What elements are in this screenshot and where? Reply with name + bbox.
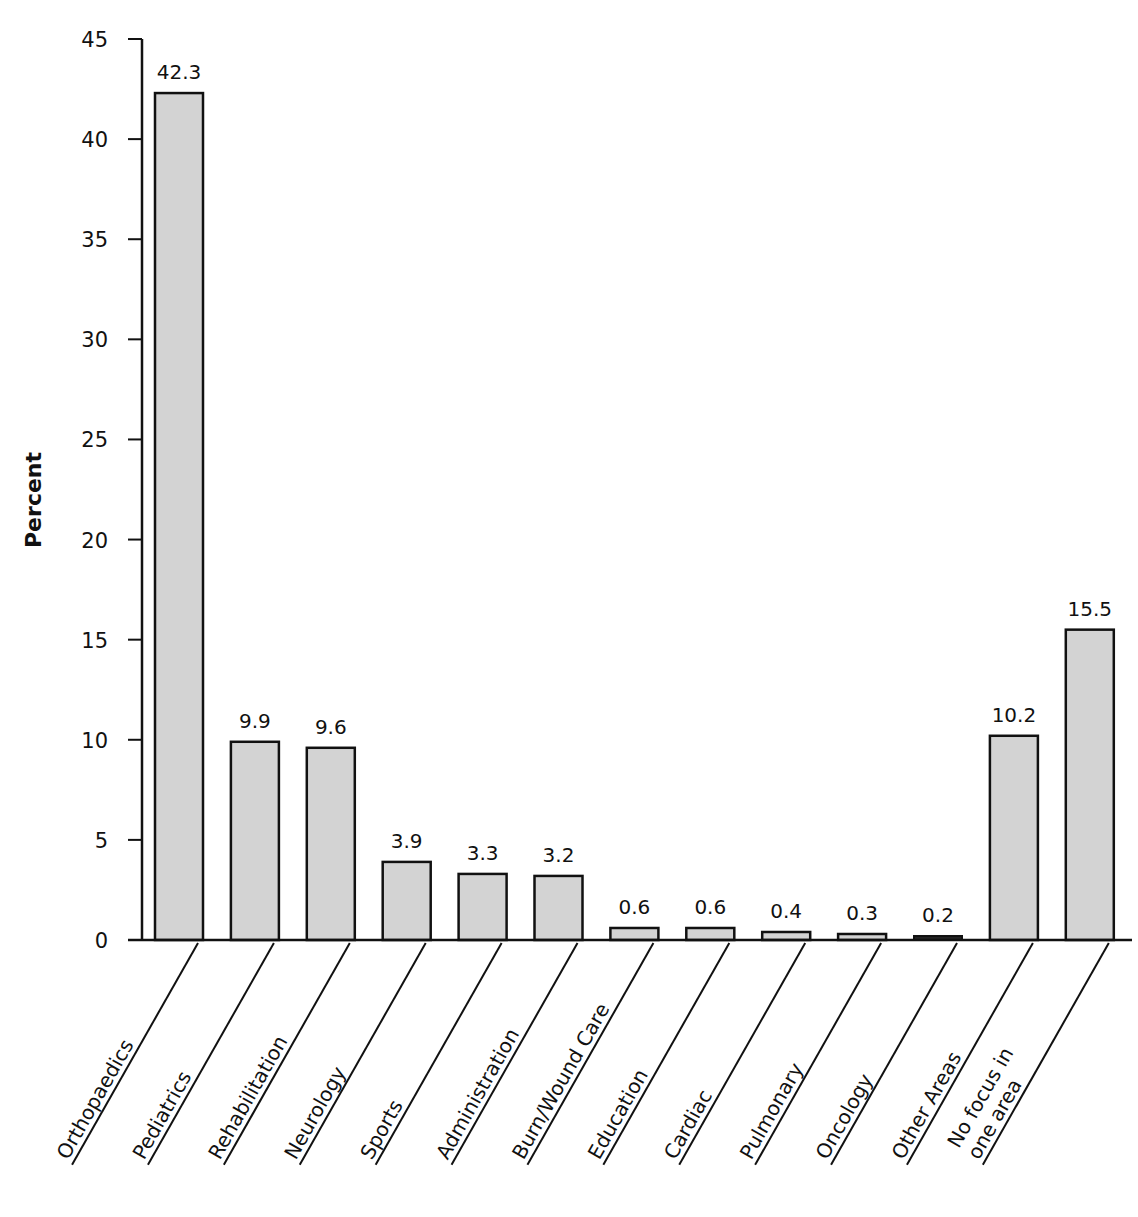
category-label: No focus inone area — [942, 943, 1108, 1165]
category-label-text: Oncology — [811, 1069, 878, 1163]
leader-line — [224, 943, 350, 1165]
leader-line — [831, 943, 957, 1165]
category-labels: OrthopaedicsPediatricsRehabilitationNeur… — [52, 943, 1109, 1165]
value-label: 0.2 — [922, 903, 954, 927]
bars: 42.39.99.63.93.33.20.60.60.40.30.210.215… — [155, 60, 1114, 940]
value-label: 0.6 — [694, 895, 726, 919]
category-label: Burn/Wound Care — [507, 943, 653, 1165]
category-label: Administration — [431, 943, 577, 1165]
bar-no-focus-in-one-area: 15.5 — [1066, 597, 1114, 940]
leader-line — [452, 943, 578, 1165]
category-label: Orthopaedics — [52, 943, 198, 1165]
category-label: Rehabilitation — [203, 943, 349, 1165]
y-tick-label: 15 — [81, 629, 108, 653]
value-label: 42.3 — [157, 60, 202, 84]
y-axis-title: Percent — [21, 452, 46, 549]
y-tick-label: 35 — [81, 228, 108, 252]
bar-orthopaedics: 42.3 — [155, 60, 203, 940]
category-label-text: Administration — [431, 1024, 524, 1163]
leader-line — [300, 943, 426, 1165]
leader-line — [679, 943, 805, 1165]
bar-administration: 3.2 — [535, 843, 583, 940]
category-label: Oncology — [811, 943, 957, 1165]
value-label: 0.6 — [618, 895, 650, 919]
bar-rehabilitation: 9.6 — [307, 715, 355, 940]
leader-line — [527, 943, 653, 1165]
value-label: 15.5 — [1068, 597, 1113, 621]
leader-line — [148, 943, 274, 1165]
bar-burn-wound-care: 0.6 — [610, 895, 658, 940]
bar-pediatrics: 9.9 — [231, 709, 279, 940]
value-label: 9.9 — [239, 709, 271, 733]
category-label: Neurology — [279, 943, 425, 1165]
bar-oncology: 0.2 — [914, 903, 962, 940]
bar-education: 0.6 — [686, 895, 734, 940]
bar-other-areas: 10.2 — [990, 703, 1038, 940]
category-label-text: Neurology — [279, 1062, 350, 1163]
value-label: 9.6 — [315, 715, 347, 739]
category-label-text: Education — [583, 1065, 653, 1163]
y-tick-label: 40 — [81, 128, 108, 152]
leader-line — [755, 943, 881, 1165]
y-tick-label: 45 — [81, 28, 108, 52]
value-label: 3.2 — [543, 843, 575, 867]
leader-line — [72, 943, 198, 1165]
category-label: Cardiac — [659, 943, 805, 1165]
category-label-text: Sports — [355, 1096, 408, 1164]
value-label: 0.3 — [846, 901, 878, 925]
value-label: 3.9 — [391, 829, 423, 853]
value-label: 10.2 — [992, 703, 1037, 727]
category-label-text: Orthopaedics — [52, 1035, 139, 1163]
y-tick-label: 10 — [81, 729, 108, 753]
y-axis: 051015202530354045 — [81, 28, 142, 953]
leader-line — [603, 943, 729, 1165]
y-tick-label: 30 — [81, 328, 108, 352]
bar-cardiac: 0.4 — [762, 899, 810, 940]
category-label: Education — [583, 943, 729, 1165]
category-label-text: Pulmonary — [735, 1058, 809, 1163]
category-label: Pulmonary — [735, 943, 881, 1165]
bar-chart: 051015202530354045 42.39.99.63.93.33.20.… — [0, 0, 1138, 1217]
category-label-text: Rehabilitation — [203, 1031, 292, 1163]
value-label: 3.3 — [467, 841, 499, 865]
y-tick-label: 0 — [95, 929, 108, 953]
y-tick-label: 5 — [95, 829, 108, 853]
bar-neurology: 3.9 — [383, 829, 431, 940]
category-label: Pediatrics — [127, 943, 273, 1165]
bar-sports: 3.3 — [459, 841, 507, 940]
bar-pulmonary: 0.3 — [838, 901, 886, 940]
value-label: 0.4 — [770, 899, 802, 923]
y-tick-label: 25 — [81, 428, 108, 452]
category-label: Sports — [355, 943, 501, 1165]
y-tick-label: 20 — [81, 529, 108, 553]
leader-line — [376, 943, 502, 1165]
category-label-text: Pediatrics — [127, 1067, 196, 1163]
